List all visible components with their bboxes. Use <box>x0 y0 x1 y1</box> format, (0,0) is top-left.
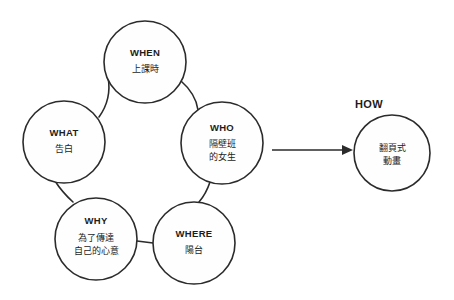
node-key-where: WHERE <box>176 228 213 239</box>
node-circle-where[interactable] <box>153 202 235 284</box>
node-value-when-line-1: 上課時 <box>132 63 159 74</box>
connector-why-what <box>55 181 73 202</box>
arrow-head <box>342 145 353 155</box>
connector-when-who <box>180 80 198 110</box>
node-circle-what[interactable] <box>23 101 105 183</box>
node-value-how-line-2: 動畫 <box>383 155 401 166</box>
node-value-why-line-2: 自己的心意 <box>74 245 119 256</box>
node-value-why-line-1: 為了傳達 <box>78 232 114 243</box>
diagram-svg: WHEN 上課時 WHO 隔壁班 的女生 WHERE 陽台 WHY 為了傳達 自… <box>0 0 454 300</box>
how-node: HOW 翻頁式 動畫 <box>354 98 430 191</box>
connector-what-when <box>99 77 109 117</box>
connector-who-where <box>199 182 210 202</box>
node-circle-how[interactable] <box>354 115 430 191</box>
node-key-why: WHY <box>84 215 107 226</box>
node-value-how-line-1: 翻頁式 <box>379 142 406 153</box>
node-value-who-line-1: 隔壁班 <box>209 138 236 149</box>
node-key-who: WHO <box>210 122 234 133</box>
node-key-what: WHAT <box>50 127 79 138</box>
how-label: HOW <box>355 98 383 110</box>
connector-where-why <box>137 241 153 243</box>
node-key-when: WHEN <box>130 47 160 58</box>
diagram-canvas: WHEN 上課時 WHO 隔壁班 的女生 WHERE 陽台 WHY 為了傳達 自… <box>0 0 454 300</box>
node-value-who-line-2: 的女生 <box>209 151 236 162</box>
cycle-to-how-arrow <box>272 145 353 155</box>
node-circle-when[interactable] <box>104 21 186 103</box>
node-text-who: WHO 隔壁班 的女生 <box>209 122 236 162</box>
node-value-what-line-1: 告白 <box>55 143 73 154</box>
node-value-where-line-1: 陽台 <box>185 244 203 255</box>
